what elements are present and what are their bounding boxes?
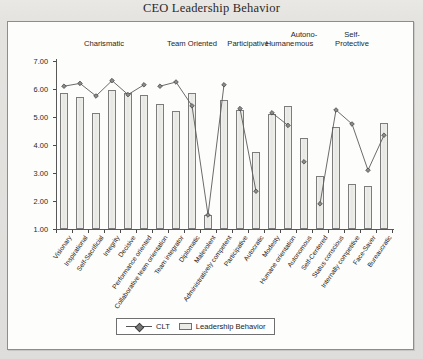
- x-axis-tick-mark: [136, 230, 137, 233]
- x-axis-tick-mark: [296, 230, 297, 233]
- x-axis-tick-mark: [56, 230, 57, 233]
- legend-item-leadership-behavior: Leadership Behavior: [179, 322, 266, 331]
- chart-frame: CharismaticTeam OrientedParticipativeHum…: [7, 21, 414, 350]
- x-axis-tick-mark: [216, 230, 217, 233]
- x-axis-tick-mark: [328, 230, 329, 233]
- x-axis-tick-mark: [360, 230, 361, 233]
- clt-marker: [158, 84, 163, 89]
- x-axis-tick-mark: [264, 230, 265, 233]
- clt-marker: [222, 83, 227, 88]
- x-axis-tick-mark: [152, 230, 153, 233]
- clt-line-segment: [160, 82, 224, 215]
- clt-marker: [238, 106, 243, 111]
- plot-area: 1.002.003.004.005.006.007.00 VisionaryIn…: [8, 22, 413, 349]
- clt-marker: [206, 213, 211, 218]
- clt-line-segment: [272, 113, 288, 126]
- x-axis-tick-mark: [248, 230, 249, 233]
- bar-swatch-icon: [179, 323, 192, 330]
- line-series-clt: [8, 22, 413, 349]
- clt-marker: [302, 160, 307, 165]
- clt-marker: [318, 202, 323, 207]
- clt-marker: [142, 83, 147, 88]
- x-axis-tick-mark: [376, 230, 377, 233]
- x-axis-tick-mark: [184, 230, 185, 233]
- x-axis-tick-mark: [280, 230, 281, 233]
- x-axis-tick-mark: [104, 230, 105, 233]
- legend-label-clt: CLT: [156, 322, 170, 331]
- legend-label-leadership-behavior: Leadership Behavior: [196, 322, 266, 331]
- x-axis-tick-mark: [232, 230, 233, 233]
- clt-marker: [382, 133, 387, 138]
- clt-marker: [366, 168, 371, 173]
- clt-marker: [62, 84, 67, 89]
- clt-line-segment: [64, 81, 144, 96]
- x-axis-tick-mark: [392, 230, 393, 233]
- chart-legend: CLT Leadership Behavior: [116, 318, 275, 335]
- x-axis-tick-mark: [200, 230, 201, 233]
- x-axis-tick-mark: [88, 230, 89, 233]
- x-axis-tick-mark: [344, 230, 345, 233]
- x-axis-tick-mark: [120, 230, 121, 233]
- x-axis-tick-mark: [312, 230, 313, 233]
- clt-marker: [254, 189, 259, 194]
- x-axis-tick-mark: [72, 230, 73, 233]
- legend-item-clt: CLT: [126, 322, 170, 331]
- x-axis-tick-mark: [168, 230, 169, 233]
- clt-line-segment: [240, 109, 256, 192]
- line-marker-icon: [126, 323, 152, 330]
- chart-title: CEO Leadership Behavior: [0, 1, 423, 16]
